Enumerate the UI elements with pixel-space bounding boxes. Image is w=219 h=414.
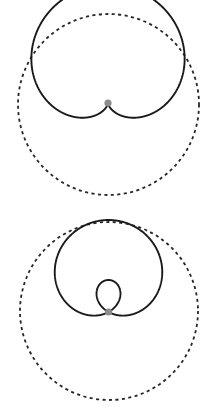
pole-dot-cardioid xyxy=(104,99,111,106)
figure-panel-cardioid xyxy=(0,0,219,207)
cardioid-plot xyxy=(0,0,219,207)
limacon-curve xyxy=(55,220,163,316)
figure-panel-limacon xyxy=(0,207,219,414)
node-dot-limacon xyxy=(105,308,112,315)
limacon-plot xyxy=(0,207,219,414)
figure-stack xyxy=(0,0,219,414)
